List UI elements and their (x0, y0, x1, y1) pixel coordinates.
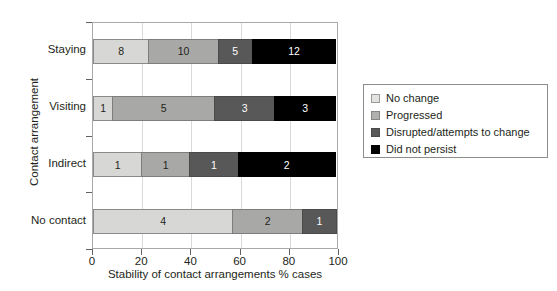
legend-label: No change (386, 92, 439, 104)
bar-segment[interactable]: 12 (252, 39, 336, 64)
y-axis-tick (86, 22, 92, 23)
bar-row: 1112 (93, 137, 337, 194)
bar-segment-value: 3 (302, 103, 308, 114)
bar-row: 421 (93, 193, 337, 250)
x-axis-label: 40 (170, 255, 210, 267)
bar-segment-value: 12 (288, 46, 300, 57)
bar-segment[interactable]: 5 (218, 39, 253, 64)
bar-segment-value: 1 (316, 216, 322, 227)
legend-label: Disrupted/attempts to change (386, 126, 530, 138)
bar-row: 810512 (93, 23, 337, 80)
bar-row: 1533 (93, 80, 337, 137)
plot-area: 81051215331112421 (92, 22, 338, 249)
stacked-bar[interactable]: 421 (93, 209, 339, 234)
bar-segment[interactable]: 2 (238, 152, 336, 177)
x-axis-label: 0 (72, 255, 112, 267)
bar-segment-value: 1 (100, 103, 106, 114)
legend-item[interactable]: Did not persist (371, 141, 547, 157)
stacked-bar[interactable]: 1533 (93, 96, 339, 121)
bar-segment-value: 10 (178, 46, 190, 57)
y-axis-tick (86, 192, 92, 193)
legend-item[interactable]: Disrupted/attempts to change (371, 124, 547, 140)
bar-segment[interactable]: 3 (214, 96, 276, 121)
bar-segment-value: 1 (163, 160, 169, 171)
legend-item[interactable]: Progressed (371, 107, 547, 123)
x-axis-title: Stability of contact arrangements % case… (92, 268, 338, 280)
bar-segment-value: 4 (160, 216, 166, 227)
bar-segment[interactable]: 1 (302, 209, 337, 234)
bar-segment-value: 3 (242, 103, 248, 114)
bar-segment-value: 5 (161, 103, 167, 114)
x-axis-label: 60 (220, 255, 260, 267)
bar-segment[interactable]: 10 (148, 39, 218, 64)
x-axis-label: 80 (269, 255, 309, 267)
bar-segment-value: 1 (115, 160, 121, 171)
chart-legend: No changeProgressedDisrupted/attempts to… (363, 84, 548, 158)
legend-label: Progressed (386, 109, 442, 121)
stacked-bar[interactable]: 1112 (93, 152, 339, 177)
legend-swatch-icon (371, 111, 380, 120)
y-axis-labels: StayingVisitingIndirectNo contact (0, 0, 86, 291)
legend-swatch-icon (371, 128, 380, 137)
y-axis-label: Indirect (4, 157, 86, 169)
legend-swatch-icon (371, 94, 380, 103)
x-axis-label: 20 (121, 255, 161, 267)
bar-segment[interactable]: 8 (93, 39, 149, 64)
bar-segment[interactable]: 1 (93, 96, 113, 121)
bar-segment-value: 2 (284, 160, 290, 171)
legend-item[interactable]: No change (371, 90, 547, 106)
stacked-bar[interactable]: 810512 (93, 39, 339, 64)
bar-segment[interactable]: 1 (189, 152, 238, 177)
bar-segment[interactable]: 5 (112, 96, 215, 121)
bar-segment[interactable]: 4 (93, 209, 233, 234)
y-axis-tick (86, 136, 92, 137)
y-axis-tick (86, 79, 92, 80)
legend-label: Did not persist (386, 143, 456, 155)
legend-swatch-icon (371, 145, 380, 154)
bar-segment[interactable]: 2 (232, 209, 302, 234)
bar-segment-value: 1 (211, 160, 217, 171)
bar-segment-value: 8 (118, 46, 124, 57)
y-axis-label: Visiting (4, 100, 86, 112)
bar-segment[interactable]: 1 (141, 152, 190, 177)
bar-segment[interactable]: 3 (274, 96, 336, 121)
x-axis-label: 100 (318, 255, 358, 267)
bar-segment[interactable]: 1 (93, 152, 142, 177)
y-axis-label: No contact (4, 214, 86, 226)
bar-segment-value: 5 (232, 46, 238, 57)
bar-segment-value: 2 (265, 216, 271, 227)
y-axis-label: Staying (4, 43, 86, 55)
